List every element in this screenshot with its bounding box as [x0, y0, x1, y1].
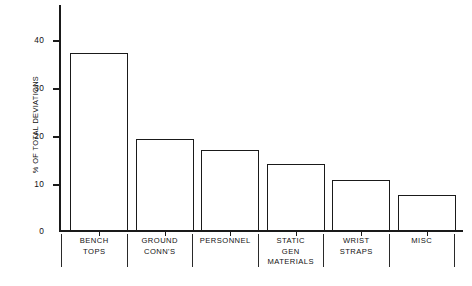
- category-label-line: GEN: [259, 247, 324, 258]
- category-label-line: PERSONNEL: [193, 236, 258, 247]
- bar-1: [70, 53, 128, 230]
- category-label-line: STRAPS: [324, 247, 389, 258]
- category-label-4: STATICGENMATERIALS: [259, 236, 324, 268]
- category-label-5: WRISTSTRAPS: [324, 236, 389, 257]
- category-label-line: STATIC: [259, 236, 324, 247]
- category-label-6: MISC: [390, 236, 455, 247]
- bar-5: [332, 180, 390, 230]
- category-label-line: MATERIALS: [259, 257, 324, 268]
- category-separator-6: [454, 234, 455, 267]
- bar-4: [267, 164, 325, 230]
- category-label-2: GROUNDCONN'S: [128, 236, 193, 257]
- category-label-3: PERSONNEL: [193, 236, 258, 247]
- bars-layer: BENCHTOPSGROUNDCONN'SPERSONNELSTATICGENM…: [0, 0, 472, 286]
- category-label-line: TOPS: [62, 247, 127, 258]
- category-label-line: WRIST: [324, 236, 389, 247]
- category-label-line: MISC: [390, 236, 455, 247]
- category-label-line: BENCH: [62, 236, 127, 247]
- bar-6: [398, 195, 456, 230]
- bar-chart: % OF TOTAL DEVIATIONS 40 30 20 10 0 BENC…: [0, 0, 472, 286]
- bar-3: [201, 150, 259, 230]
- category-label-1: BENCHTOPS: [62, 236, 127, 257]
- category-label-line: GROUND: [128, 236, 193, 247]
- category-label-line: CONN'S: [128, 247, 193, 258]
- bar-2: [136, 139, 194, 230]
